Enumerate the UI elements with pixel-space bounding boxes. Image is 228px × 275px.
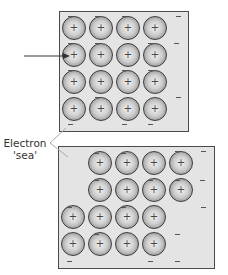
electron-sea-label-line2: 'sea' xyxy=(0,149,50,161)
electron-sea-label: Electron 'sea' xyxy=(0,137,50,161)
electron-sea-label-line1: Electron xyxy=(0,137,50,149)
electron-sea-pointer-lines xyxy=(50,128,68,157)
force-arrow-icon xyxy=(24,53,70,59)
